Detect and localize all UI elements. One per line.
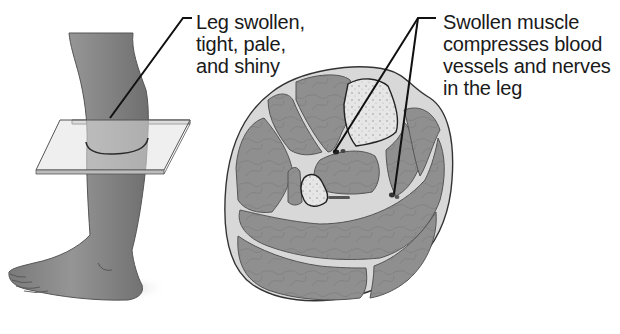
leg-side-view [9, 18, 192, 302]
section-plane [36, 120, 190, 170]
leg-symptom-label: Leg swollen, tight, pale, and shiny [196, 11, 305, 77]
muscle-peroneal [288, 168, 302, 206]
peroneal-vessels [328, 196, 350, 199]
section-plane-edge [36, 170, 164, 174]
muscle-compression-label: Swollen muscle compresses blood vessels … [443, 11, 611, 99]
tibia-bone [344, 79, 398, 146]
